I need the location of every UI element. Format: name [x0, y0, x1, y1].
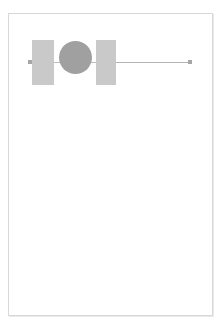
endpoint-handle-end[interactable]	[188, 60, 192, 64]
rectangle-shape-1[interactable]	[32, 40, 54, 85]
drawing-canvas[interactable]	[0, 0, 223, 333]
rectangle-shape-2-label	[96, 40, 97, 41]
rectangle-shape-1-label	[32, 40, 33, 41]
circle-shape-1[interactable]	[59, 41, 92, 74]
horizontal-line-shape[interactable]	[116, 62, 190, 63]
rectangle-shape-2[interactable]	[96, 40, 116, 85]
endpoint-handle-start[interactable]	[28, 60, 32, 64]
